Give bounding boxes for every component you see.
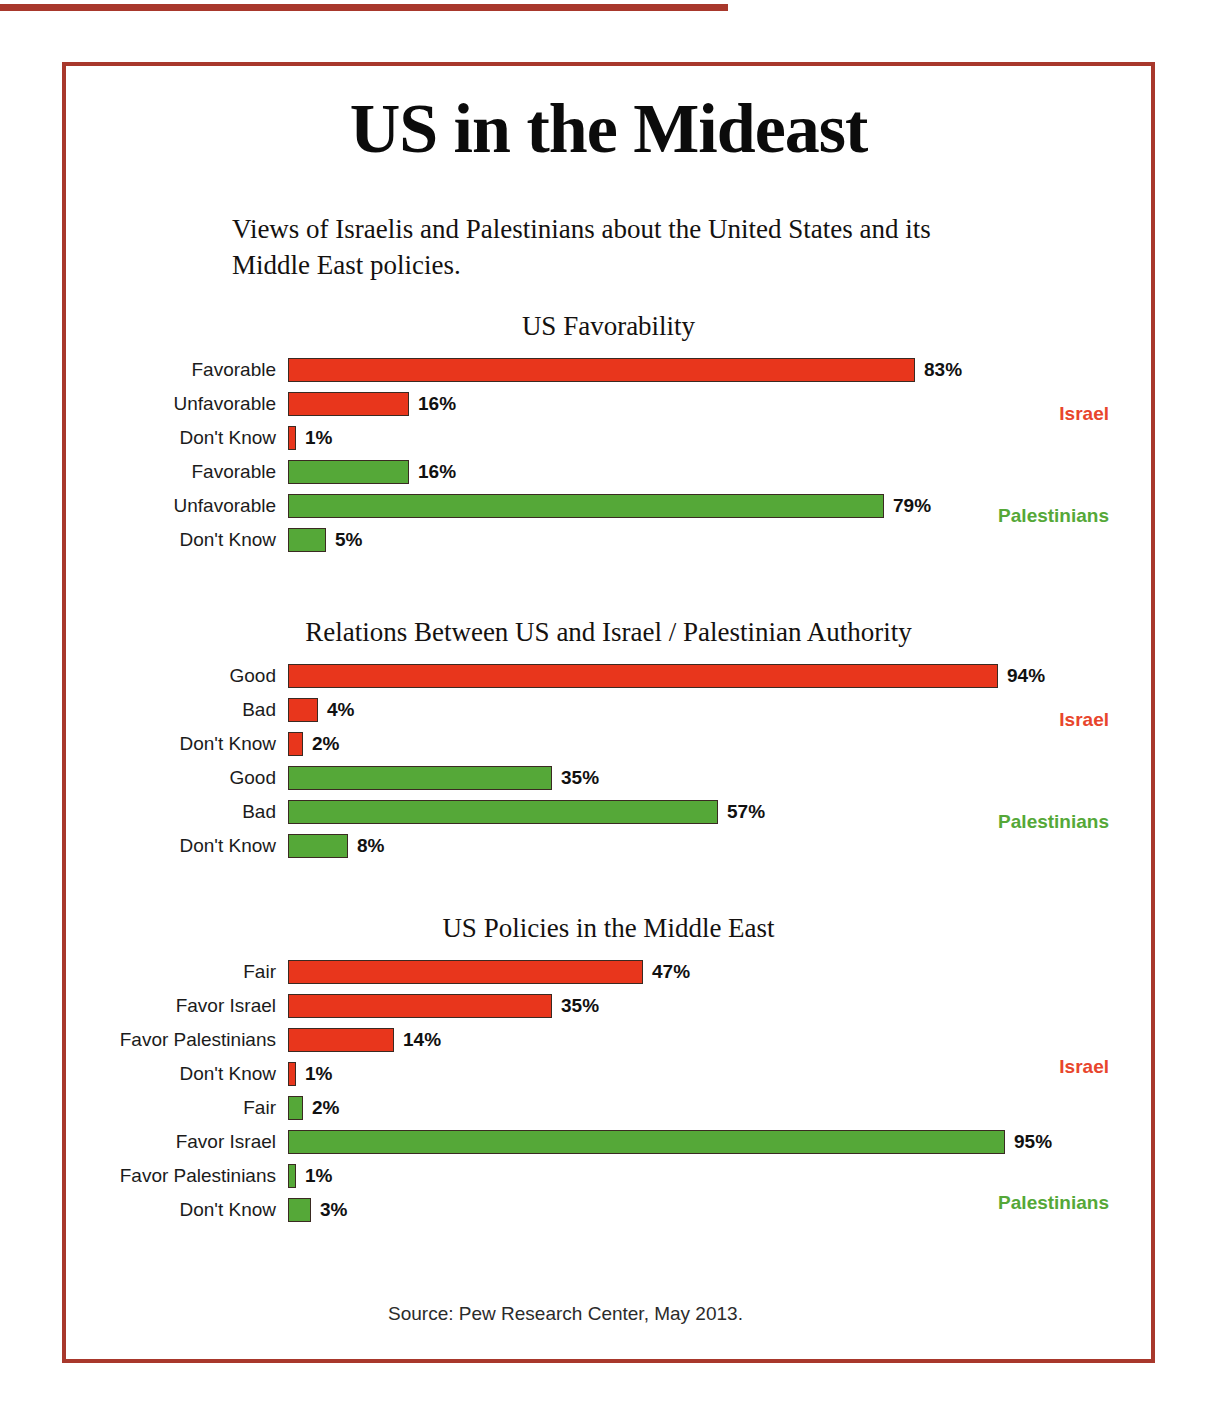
top-rule xyxy=(0,4,728,11)
legend-pal: Palestinians xyxy=(998,505,1109,527)
subtitle: Views of Israelis and Palestinians about… xyxy=(232,212,992,283)
source-note: Source: Pew Research Center, May 2013. xyxy=(66,1303,1151,1325)
chart-section-2: Relations Between US and Israel / Palest… xyxy=(66,617,1151,861)
legend-group: IsraelPalestinians xyxy=(66,966,1151,1238)
chart-section-1: US FavorabilityFavorable83%Unfavorable16… xyxy=(66,311,1151,555)
chart-sections: US FavorabilityFavorable83%Unfavorable16… xyxy=(66,311,1151,1225)
legend-pal: Palestinians xyxy=(998,811,1109,833)
legend-israel: Israel xyxy=(1059,709,1109,731)
legend-pal: Palestinians xyxy=(998,1192,1109,1214)
legend-group: IsraelPalestinians xyxy=(66,670,1151,874)
chart-title: US Policies in the Middle East xyxy=(66,913,1151,944)
page-title: US in the Mideast xyxy=(66,92,1151,166)
legend-israel: Israel xyxy=(1059,403,1109,425)
chart-title: Relations Between US and Israel / Palest… xyxy=(66,617,1151,648)
chart-section-3: US Policies in the Middle EastFair47%Fav… xyxy=(66,913,1151,1225)
legend-group: IsraelPalestinians xyxy=(66,364,1151,568)
infographic-frame: US in the Mideast Views of Israelis and … xyxy=(62,62,1155,1363)
chart-title: US Favorability xyxy=(66,311,1151,342)
legend-israel: Israel xyxy=(1059,1056,1109,1078)
